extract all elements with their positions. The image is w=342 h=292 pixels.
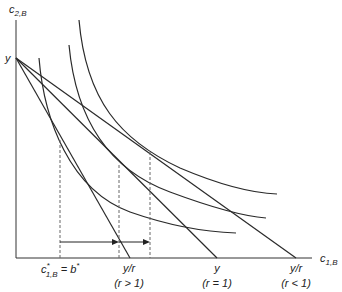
indifference-curve-high — [79, 20, 277, 194]
tick-label-r-gt-1-line2: (r > 1) — [114, 277, 144, 289]
x-axis-label: c1,B — [320, 252, 338, 267]
budget-line-r-eq-1 — [16, 58, 217, 258]
budget-line-r-lt-1 — [16, 58, 296, 258]
y-axis-label: c2,B — [9, 3, 27, 18]
tick-label-r-lt-1-line1: y/r — [289, 262, 304, 274]
tick-c-sub: 1,B — [46, 270, 59, 279]
y-intercept-label: y — [4, 52, 12, 64]
arrowhead-icon — [143, 239, 150, 245]
tick-label-r-gt-1-line1: y/r — [122, 262, 137, 274]
tick-label-r-eq-1-line2: (r = 1) — [202, 277, 232, 289]
tick-label-c1b-star: c*1,B = b* — [41, 261, 80, 279]
tick-label-r-lt-1-line2: (r < 1) — [281, 277, 311, 289]
x-axis-label-sub: 1,B — [326, 258, 339, 267]
y-axis-label-sub: 2,B — [14, 9, 28, 18]
budget-line-r-gt-1 — [16, 58, 130, 258]
intertemporal-budget-diagram: c2,B c1,B y c*1,B = b* y/r (r > 1) y (r … — [0, 0, 342, 292]
arrowhead-icon — [112, 239, 119, 245]
tick-c-sup: * — [47, 261, 51, 270]
tick-label-r-eq-1-line1: y — [213, 262, 221, 274]
tick-c-rest: = b — [58, 263, 77, 275]
indifference-curve-mid — [69, 45, 266, 218]
tick-b-sup: * — [76, 261, 80, 270]
